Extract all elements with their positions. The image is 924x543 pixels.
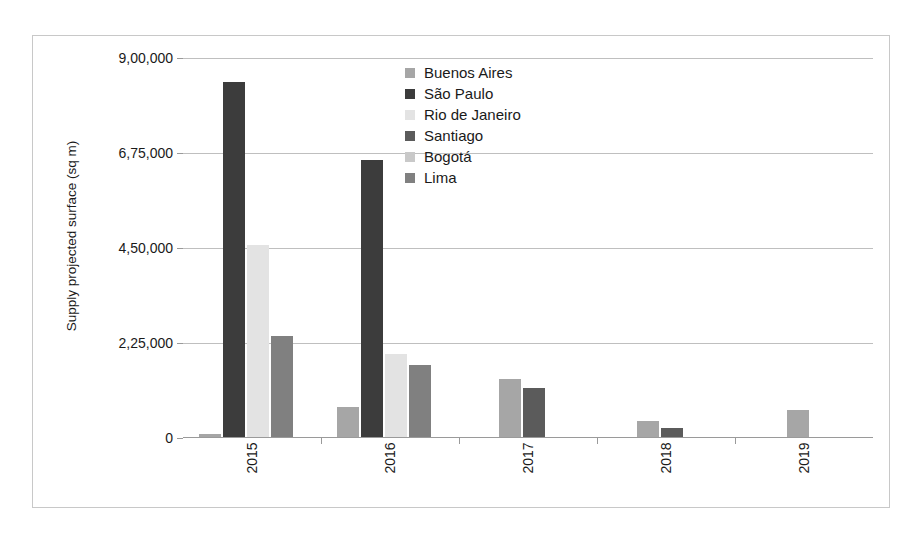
y-axis-tick-label: 0 — [87, 430, 173, 446]
legend-swatch-icon — [405, 89, 415, 99]
gridline — [183, 248, 873, 249]
y-axis-tick-label: 4,50,000 — [87, 240, 173, 256]
legend-swatch-icon — [405, 131, 415, 141]
bar[interactable] — [637, 421, 659, 437]
legend-item[interactable]: Rio de Janeiro — [405, 104, 615, 125]
y-axis-tick-mark — [177, 438, 183, 439]
x-axis-tick-label: 2018 — [658, 435, 674, 481]
y-axis-tick-mark — [177, 248, 183, 249]
legend-item[interactable]: Buenos Aires — [405, 62, 615, 83]
chart-frame: Supply projected surface (sq m) 02,25,00… — [32, 35, 890, 508]
y-axis-tick-label: 6,75,000 — [87, 145, 173, 161]
gridline — [183, 58, 873, 59]
legend-item-label: Rio de Janeiro — [424, 106, 521, 123]
y-axis-tick-label: 9,00,000 — [87, 50, 173, 66]
legend-item[interactable]: São Paulo — [405, 83, 615, 104]
legend-item-label: Bogotá — [424, 148, 472, 165]
bar[interactable] — [361, 160, 383, 437]
y-axis-tick-mark — [177, 153, 183, 154]
bar[interactable] — [409, 365, 431, 437]
legend-swatch-icon — [405, 173, 415, 183]
y-axis-title: Supply projected surface (sq m) — [59, 36, 85, 436]
bar[interactable] — [523, 388, 545, 437]
y-axis-tick-labels: 02,25,0004,50,0006,75,0009,00,000 — [87, 36, 173, 509]
bar[interactable] — [499, 379, 521, 437]
x-axis-tick-label: 2017 — [520, 435, 536, 481]
x-axis-tick-label: 2015 — [244, 435, 260, 481]
legend-swatch-icon — [405, 152, 415, 162]
bar[interactable] — [247, 245, 269, 437]
legend-item-label: Lima — [424, 169, 457, 186]
legend-item-label: Santiago — [424, 127, 483, 144]
bar[interactable] — [223, 82, 245, 437]
bar[interactable] — [199, 434, 221, 437]
y-axis-tick-label: 2,25,000 — [87, 335, 173, 351]
legend-item[interactable]: Santiago — [405, 125, 615, 146]
chart-legend: Buenos AiresSão PauloRio de JaneiroSanti… — [405, 62, 615, 188]
bar[interactable] — [271, 336, 293, 437]
bar[interactable] — [337, 407, 359, 437]
x-axis-tick-labels: 20152016201720182019 — [183, 444, 873, 504]
y-axis-tick-mark — [177, 58, 183, 59]
bar[interactable] — [385, 354, 407, 437]
legend-swatch-icon — [405, 68, 415, 78]
bar[interactable] — [787, 410, 809, 437]
x-axis-tick-label: 2019 — [796, 435, 812, 481]
legend-swatch-icon — [405, 110, 415, 120]
x-axis-tick-label: 2016 — [382, 435, 398, 481]
y-axis-tick-mark — [177, 343, 183, 344]
legend-item-label: Buenos Aires — [424, 64, 512, 81]
legend-item[interactable]: Bogotá — [405, 146, 615, 167]
legend-item-label: São Paulo — [424, 85, 493, 102]
legend-item[interactable]: Lima — [405, 167, 615, 188]
